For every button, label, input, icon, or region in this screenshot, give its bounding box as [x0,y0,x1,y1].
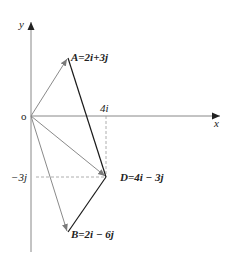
y-axis-label: y [18,18,24,30]
vector-diagram: y x o 4i −3j A=2i+3j D=4i − 3j B=2i − 6j [0,0,231,268]
vector-ob [31,116,67,231]
point-b-name: B [70,228,78,240]
point-d-label: D=4i − 3j [119,171,164,183]
point-d-name: D [119,171,128,183]
vector-oa [31,59,67,116]
point-a-name: A [70,51,78,63]
x-tick-label: 4i [100,102,109,114]
vector-od [31,116,105,176]
y-tick-label: −3j [11,171,27,183]
point-a-expr: =2i+3j [78,51,109,63]
segment-db [68,177,106,232]
point-d-expr: =4i − 3j [128,171,164,183]
x-axis-label: x [213,117,219,129]
origin-label: o [21,110,27,122]
segment-ad [68,58,106,177]
point-a-label: A=2i+3j [70,51,109,63]
point-b-expr: =2i − 6j [78,228,114,240]
point-b-label: B=2i − 6j [70,228,115,240]
